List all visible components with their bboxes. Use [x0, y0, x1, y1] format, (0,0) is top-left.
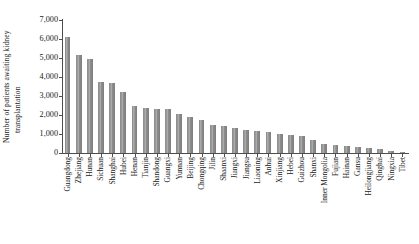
bar [98, 82, 104, 153]
bar [132, 106, 138, 154]
x-tick-label: Xinjiang [276, 157, 283, 183]
bar [321, 144, 327, 154]
bar [366, 148, 372, 153]
x-tick-label: Sichuan [97, 157, 104, 181]
x-tick-label: Fujian [332, 157, 339, 176]
x-tick-label: Tianjin [142, 157, 149, 178]
bar [187, 117, 193, 153]
x-tick-label: Hunan [86, 157, 93, 177]
y-tick-label: 3,000 [40, 92, 58, 100]
x-tick-label: Guangxi [164, 157, 171, 182]
x-tick-label: Beijing [187, 157, 194, 179]
x-tick-label: Inner Mongolia [321, 157, 328, 203]
y-tick-label: 5,000 [40, 54, 58, 62]
x-tick-label: Hebei [287, 157, 294, 175]
bar [254, 131, 260, 153]
bar [232, 128, 238, 153]
x-axis-labels: GuangdongZhejiangHunanSichuanShanghaiHub… [62, 157, 412, 244]
y-tick-mark [59, 20, 62, 21]
x-tick-label: Guangdong [64, 157, 71, 192]
x-tick-label: Shanxi [310, 157, 317, 178]
bar [388, 151, 394, 153]
y-tick-label: 2,000 [40, 111, 58, 119]
x-tick-label: Liaoning [254, 157, 261, 184]
y-tick-mark [59, 96, 62, 97]
y-tick-mark [59, 153, 62, 154]
x-tick-label: Hainan [343, 157, 350, 178]
bar [355, 147, 361, 153]
x-tick-label: Henan [131, 157, 138, 176]
bar [243, 130, 249, 153]
x-tick-label: Zhejiang [75, 157, 82, 183]
bar [299, 136, 305, 153]
bar [165, 109, 171, 153]
x-tick-label: Ningxia [388, 157, 395, 181]
bar [288, 135, 294, 153]
bar [176, 114, 182, 153]
kidney-waitlist-bar-chart: Number of patients awaiting kidney trans… [0, 0, 419, 244]
bar [266, 132, 272, 153]
bar [76, 55, 82, 153]
x-tick-label: Heilongjiang [365, 157, 372, 196]
bar [333, 145, 339, 153]
y-axis-ticks: 01,0002,0003,0004,0005,0006,0007,000 [0, 0, 58, 180]
x-tick-label: Hubei [120, 157, 127, 175]
bar [65, 37, 71, 153]
y-tick-label: 4,000 [40, 73, 58, 81]
x-tick-label: Guizhou [298, 157, 305, 182]
bar [109, 83, 115, 153]
bar [377, 149, 383, 153]
x-tick-label: Chongqing [198, 157, 205, 190]
y-tick-label: 0 [54, 149, 58, 157]
bar [199, 120, 205, 153]
bar [87, 59, 93, 153]
y-tick-label: 1,000 [40, 130, 58, 138]
x-tick-label: Shanghai [109, 157, 116, 185]
bar [221, 126, 227, 153]
bar [210, 125, 216, 153]
x-tick-label: Yunnan [176, 157, 183, 180]
x-tick-label: Qinghai [376, 157, 383, 181]
y-tick-mark [59, 77, 62, 78]
bar [310, 140, 316, 153]
y-tick-mark [59, 58, 62, 59]
y-tick-mark [59, 39, 62, 40]
x-tick-label: Jiangsu [243, 157, 250, 179]
x-tick-label: Tibet [399, 157, 406, 172]
plot-area [62, 20, 408, 153]
bar [344, 146, 350, 153]
x-tick-label: Gansu [354, 157, 361, 176]
bar [120, 92, 126, 153]
x-tick-label: Jilin [209, 157, 216, 170]
bar [154, 109, 160, 153]
y-tick-mark [59, 134, 62, 135]
y-tick-mark [59, 115, 62, 116]
bar [143, 108, 149, 153]
y-tick-label: 6,000 [40, 35, 58, 43]
x-tick-label: Shandong [153, 157, 160, 187]
x-tick-label: Anhui [265, 157, 272, 175]
bar [277, 134, 283, 153]
x-tick-label: Shaanxi [220, 157, 227, 181]
x-tick-label: Jiangxi [231, 157, 238, 178]
bar [400, 152, 406, 153]
y-tick-label: 7,000 [40, 16, 58, 24]
